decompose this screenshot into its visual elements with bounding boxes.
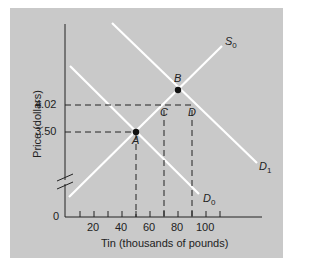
d1-label: D1 <box>259 160 271 175</box>
supply-curve-s0 <box>69 46 222 197</box>
point-b-marker <box>175 87 181 93</box>
y-tick-3-50: 3.50 <box>35 125 56 137</box>
y-tick-0: 0 <box>53 210 59 222</box>
reference-lines <box>65 105 192 217</box>
point-c-label: C <box>160 106 168 118</box>
x-ticks <box>80 211 220 217</box>
x-tick-60: 60 <box>143 221 155 233</box>
point-a-label: A <box>132 134 139 146</box>
x-axis-label: Tin (thousands of pounds) <box>101 237 228 249</box>
s0-label: S0 <box>225 35 237 50</box>
point-d-label: D <box>188 106 196 118</box>
x-tick-80: 80 <box>171 221 183 233</box>
x-tick-40: 40 <box>115 221 127 233</box>
point-b-label: B <box>174 72 181 84</box>
x-tick-100: 100 <box>196 221 214 233</box>
y-tick-4-02: 4.02 <box>35 98 56 110</box>
x-tick-20: 20 <box>87 221 99 233</box>
y-axis-label: Price (dollars) <box>31 79 43 169</box>
d0-label: D0 <box>203 192 215 207</box>
